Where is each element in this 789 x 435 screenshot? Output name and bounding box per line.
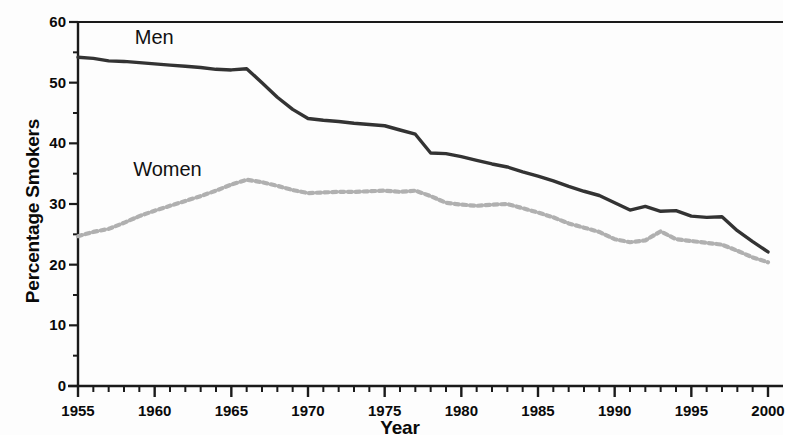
y-tick-label: 0 — [26, 377, 66, 394]
y-tick-label: 20 — [26, 256, 66, 273]
x-tick-label: 1980 — [431, 402, 491, 419]
y-tick-label: 50 — [26, 74, 66, 91]
series-annotation-women: Women — [133, 158, 202, 181]
y-tick-label: 10 — [26, 316, 66, 333]
series-line-men — [78, 57, 768, 252]
y-tick-label: 40 — [26, 134, 66, 151]
x-axis-title: Year — [340, 417, 460, 435]
x-tick-label: 1995 — [661, 402, 721, 419]
x-tick-label: 1985 — [508, 402, 568, 419]
x-tick-label: 1990 — [585, 402, 645, 419]
x-tick-label: 1955 — [48, 402, 108, 419]
series-line-women — [78, 180, 768, 263]
y-tick-label: 30 — [26, 195, 66, 212]
x-tick-label: 1965 — [201, 402, 261, 419]
x-tick-label: 2000 — [738, 402, 789, 419]
x-tick-label: 1975 — [355, 402, 415, 419]
x-tick-label: 1970 — [278, 402, 338, 419]
x-tick-label: 1960 — [125, 402, 185, 419]
series-annotation-men: Men — [135, 26, 174, 49]
y-tick-label: 60 — [26, 13, 66, 30]
